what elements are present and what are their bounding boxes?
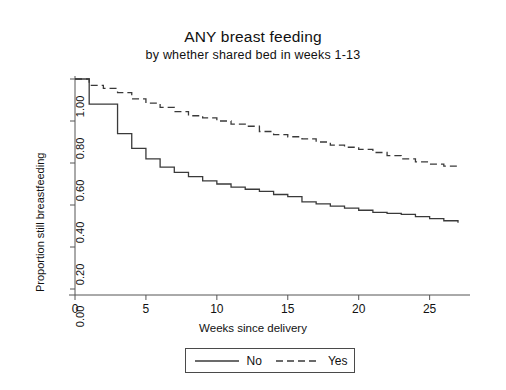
- legend-label-no: No: [247, 354, 262, 368]
- legend-swatch-dashed: [274, 356, 322, 366]
- legend-entry-yes[interactable]: Yes: [274, 354, 348, 368]
- legend-entry-no[interactable]: No: [193, 354, 262, 368]
- legend-label-yes: Yes: [328, 354, 348, 368]
- legend-swatch-solid: [193, 356, 241, 366]
- series-line-no: [75, 79, 458, 223]
- series-line-yes: [75, 79, 458, 167]
- chart-figure: ANY breast feeding by whether shared bed…: [0, 0, 506, 390]
- chart-legend: NoYes: [185, 348, 355, 373]
- plot-area: [0, 0, 506, 390]
